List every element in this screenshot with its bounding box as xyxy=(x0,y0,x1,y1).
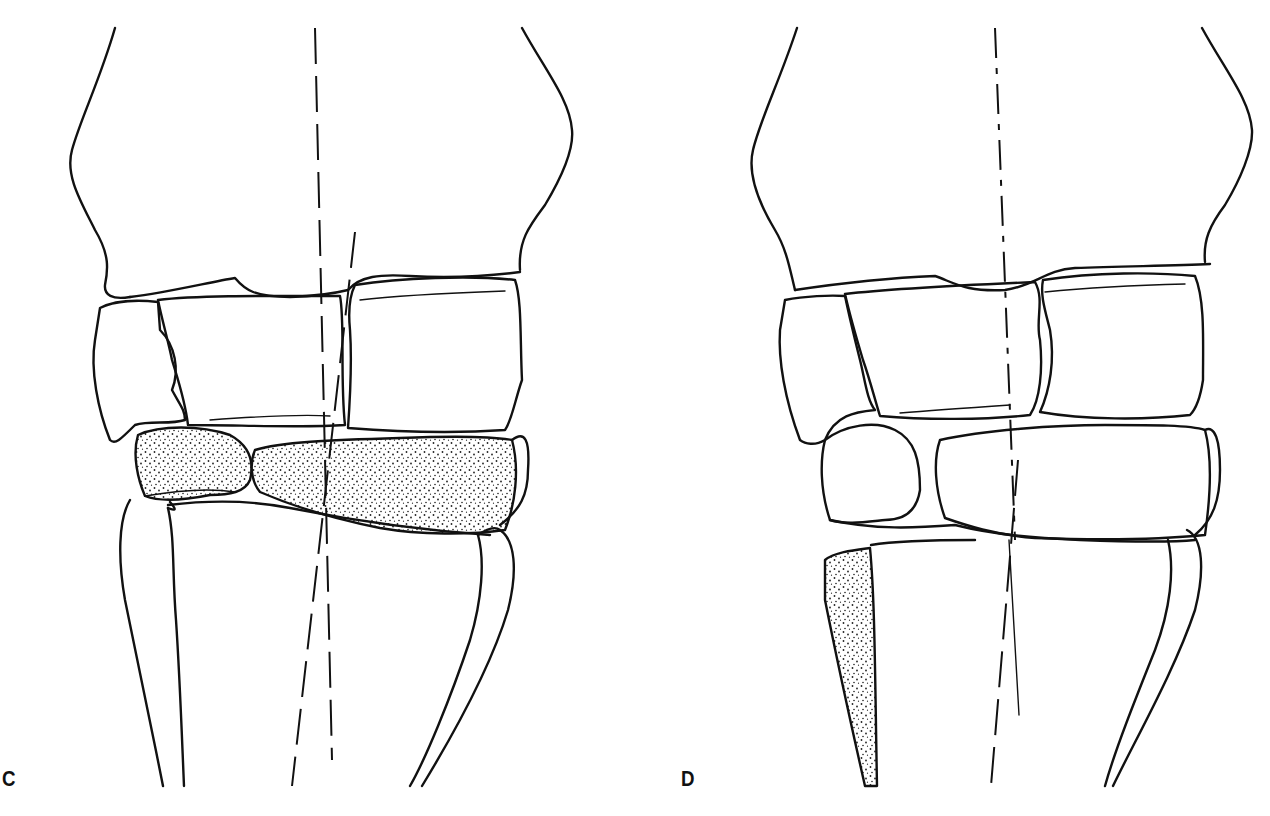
upper-bone-outline xyxy=(70,28,130,298)
splint-bone-left xyxy=(120,500,163,786)
panel-d-illustration xyxy=(635,0,1270,816)
carpal-upper-1 xyxy=(93,301,185,442)
carpal-lower-1 xyxy=(822,425,920,523)
splint-bone-medial xyxy=(825,548,877,786)
carpal-upper-3 xyxy=(348,278,522,432)
carpal-upper-2 xyxy=(158,296,345,426)
distal-carpal-bone-medial xyxy=(136,428,252,500)
carpal-upper-3 xyxy=(1040,273,1203,418)
cannon-bone-right xyxy=(1105,540,1171,786)
panel-c: C xyxy=(0,0,635,816)
panel-label-d: D xyxy=(681,766,695,792)
panel-c-illustration xyxy=(0,0,635,816)
panel-d: D xyxy=(635,0,1270,816)
axis-line-vertical xyxy=(315,28,332,760)
carpal-upper-1 xyxy=(780,296,875,444)
distal-carpal-bone-lateral xyxy=(252,437,516,534)
upper-bone-outline xyxy=(752,28,797,290)
carpal-upper-2 xyxy=(845,282,1041,419)
panel-label-c: C xyxy=(2,766,16,792)
cannon-bone-right xyxy=(410,535,482,786)
carpal-lower-2 xyxy=(936,425,1210,539)
